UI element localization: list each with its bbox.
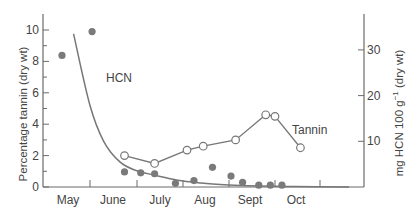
hcn-point	[88, 28, 95, 35]
right-axis-tick-label: 20	[367, 89, 381, 103]
left-axis-tick-label: 4	[32, 117, 39, 131]
tannin-series	[121, 111, 305, 167]
tannin-point	[262, 111, 270, 119]
tannin-series-label: Tannin	[292, 123, 327, 137]
x-axis-month-label: Aug	[194, 193, 215, 207]
tannin-hcn-chart: 0246810102030MayJuneJulyAugSeptOct HCN T…	[0, 0, 415, 209]
tannin-point	[271, 113, 279, 121]
left-axis-tick-label: 10	[26, 23, 40, 37]
hcn-point	[137, 169, 144, 176]
x-axis-month-label: June	[100, 193, 126, 207]
x-axis-month-label: Oct	[287, 193, 306, 207]
hcn-point	[172, 180, 179, 187]
tannin-line	[125, 115, 301, 164]
tannin-point	[232, 136, 240, 144]
hcn-point	[121, 168, 128, 175]
left-axis-tick-label: 0	[32, 180, 39, 194]
tannin-point	[151, 160, 159, 168]
left-axis-title: Percentage tannin (dry wt)	[17, 46, 29, 181]
tannin-point	[199, 142, 207, 150]
left-axis-tick-label: 8	[32, 54, 39, 68]
x-axis-month-label: Sept	[238, 193, 263, 207]
tannin-point	[121, 152, 129, 160]
hcn-series-label: HCN	[106, 71, 132, 85]
hcn-point	[227, 172, 234, 179]
tannin-point	[297, 144, 305, 152]
hcn-point	[267, 182, 274, 189]
hcn-point	[239, 179, 246, 186]
tannin-point	[183, 146, 191, 154]
axes: 0246810102030MayJuneJulyAugSeptOct	[26, 14, 381, 207]
right-axis-tick-label: 30	[367, 43, 381, 57]
left-axis-tick-label: 2	[32, 149, 39, 163]
x-axis-month-label: July	[149, 193, 170, 207]
hcn-point	[255, 182, 262, 189]
hcn-data-points	[58, 28, 285, 189]
hcn-point	[190, 177, 197, 184]
left-axis-tick-label: 6	[32, 86, 39, 100]
hcn-point	[278, 182, 285, 189]
right-axis-tick-label: 10	[367, 134, 381, 148]
right-axis-title: mg HCN 100 g−1 (dry wt)	[391, 49, 405, 176]
hcn-point	[209, 164, 216, 171]
x-axis-month-label: May	[57, 193, 80, 207]
hcn-point	[151, 170, 158, 177]
hcn-point	[58, 52, 65, 59]
